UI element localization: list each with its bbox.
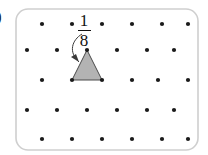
lattice-dot [186, 78, 190, 82]
lattice-dot [55, 108, 59, 112]
lattice-dot [55, 48, 59, 52]
lattice-dot [100, 22, 104, 26]
lattice-dot [160, 137, 164, 141]
fraction-numerator: 1 [70, 12, 98, 29]
lattice-dot [145, 108, 149, 112]
lattice-dot [25, 108, 29, 112]
lattice-dot [70, 78, 74, 82]
lattice-dot [115, 48, 119, 52]
fraction-denominator: 8 [70, 32, 98, 49]
lattice-dot [100, 78, 104, 82]
lattice-dot [130, 78, 134, 82]
lattice-dot [186, 137, 190, 141]
lattice-dot [172, 48, 176, 52]
lattice-dot [172, 108, 176, 112]
lattice-dot [40, 137, 44, 141]
lattice-dots [25, 22, 190, 141]
lattice-dot [156, 78, 160, 82]
lattice-dot [145, 48, 149, 52]
lattice-dot [85, 108, 89, 112]
lattice-dot [130, 137, 134, 141]
lattice-dot [40, 78, 44, 82]
shaded-triangle [72, 50, 102, 80]
lattice-dot [160, 22, 164, 26]
callout-arrow-head [71, 54, 79, 62]
lattice-dot [130, 22, 134, 26]
lattice-dot [40, 22, 44, 26]
lattice-dot [186, 22, 190, 26]
figure-canvas [0, 0, 208, 155]
dot-lattice-figure: ) [0, 0, 208, 155]
area-fraction-label: 1 8 [70, 12, 98, 49]
lattice-dot [25, 48, 29, 52]
lattice-dot [100, 137, 104, 141]
lattice-dot [70, 137, 74, 141]
lattice-dot [115, 108, 119, 112]
